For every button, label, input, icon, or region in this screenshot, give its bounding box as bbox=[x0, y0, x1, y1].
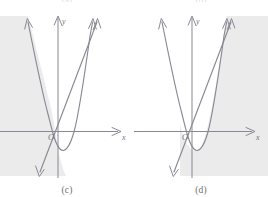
shaded-region-c bbox=[0, 16, 66, 176]
panel-d-plot: x y O bbox=[134, 0, 268, 197]
line-curve-c bbox=[40, 22, 97, 172]
x-axis-label-c: x bbox=[121, 133, 126, 142]
origin-label-c: O bbox=[48, 132, 54, 142]
origin-label-d: O bbox=[182, 132, 188, 142]
panel-d-caption: (d) bbox=[134, 185, 268, 195]
figure-root: (a) x y O (c) (b) bbox=[0, 0, 268, 197]
panel-c-caption: (c) bbox=[0, 185, 134, 195]
panel-d: (b) x y O (d) bbox=[134, 0, 268, 197]
y-axis-label-d: y bbox=[195, 17, 200, 26]
panel-c-plot: x y O bbox=[0, 0, 134, 197]
x-axis-label-d: x bbox=[255, 133, 260, 142]
y-axis-label-c: y bbox=[61, 17, 66, 26]
panel-c: (a) x y O (c) bbox=[0, 0, 134, 197]
